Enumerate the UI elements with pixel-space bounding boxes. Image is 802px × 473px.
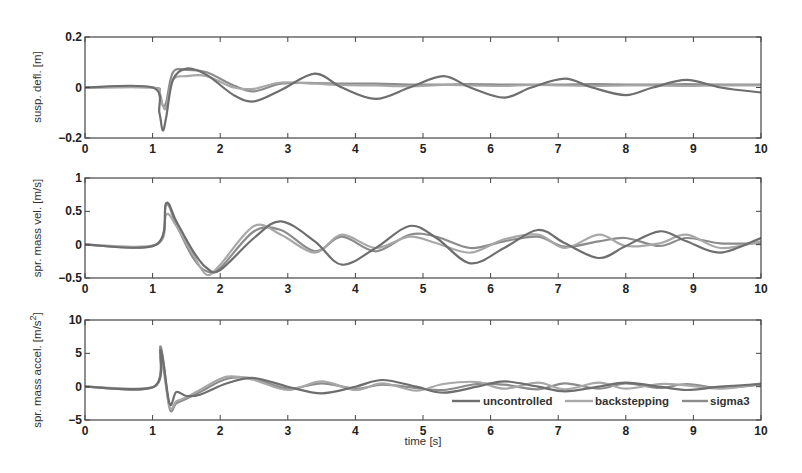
axes-box bbox=[85, 37, 761, 138]
x-tick-label: 6 bbox=[487, 424, 494, 438]
x-tick-label: 0 bbox=[82, 424, 89, 438]
x-tick-label: 1 bbox=[149, 424, 156, 438]
y-tick-label: −0.2 bbox=[58, 131, 82, 145]
x-tick-label: 4 bbox=[352, 142, 359, 156]
line-uncontrolled bbox=[85, 203, 761, 273]
y-axis-label-suspension-deflection: susp. defl. [m] bbox=[31, 51, 43, 123]
x-tick-label: 2 bbox=[217, 424, 224, 438]
x-tick-label: 4 bbox=[352, 282, 359, 296]
x-tick-label: 9 bbox=[690, 282, 697, 296]
x-tick-label: 1 bbox=[149, 282, 156, 296]
y-tick-label: 0 bbox=[75, 380, 82, 394]
y-tick-label: 0.5 bbox=[65, 204, 82, 218]
series-group bbox=[85, 68, 761, 130]
legend: uncontrolledbacksteppingsigma3 bbox=[452, 395, 750, 407]
x-tick-label: 4 bbox=[352, 424, 359, 438]
x-tick-label: 0 bbox=[82, 142, 89, 156]
x-tick-label: 9 bbox=[690, 424, 697, 438]
x-tick-label: 5 bbox=[420, 282, 427, 296]
y-tick-label: 1 bbox=[75, 171, 82, 185]
x-tick-label: 8 bbox=[622, 424, 629, 438]
y-axis-label-sprung-mass-velocity: spr. mass vel. [m/s] bbox=[31, 179, 43, 277]
x-tick-label: 8 bbox=[622, 142, 629, 156]
x-tick-label: 9 bbox=[690, 142, 697, 156]
x-tick-label: 1 bbox=[149, 142, 156, 156]
panel-sprung-mass-acceleration: 012345678910−50510 bbox=[68, 313, 768, 438]
y-tick-label: 0 bbox=[75, 238, 82, 252]
y-tick-label: −5 bbox=[68, 413, 82, 427]
x-tick-label: 0 bbox=[82, 282, 89, 296]
x-axis-label: time [s] bbox=[404, 435, 441, 447]
line-uncontrolled bbox=[85, 68, 761, 130]
panel-sprung-mass-velocity: 012345678910−0.500.51 bbox=[58, 171, 768, 296]
legend-label-sigma3: sigma3 bbox=[710, 395, 750, 407]
x-tick-label: 5 bbox=[420, 142, 427, 156]
series-group bbox=[85, 203, 761, 275]
x-tick-label: 7 bbox=[555, 424, 562, 438]
y-tick-label: 10 bbox=[69, 313, 83, 327]
y-tick-label: 0.2 bbox=[65, 30, 82, 44]
x-tick-label: 3 bbox=[284, 142, 291, 156]
legend-label-backstepping: backstepping bbox=[595, 395, 669, 407]
y-tick-label: 0 bbox=[75, 81, 82, 95]
y-tick-label: −0.5 bbox=[58, 271, 82, 285]
legend-label-uncontrolled: uncontrolled bbox=[483, 395, 553, 407]
x-tick-label: 3 bbox=[284, 282, 291, 296]
x-tick-label: 10 bbox=[754, 142, 768, 156]
x-tick-label: 3 bbox=[284, 424, 291, 438]
y-axis-label-sprung-mass-acceleration: spr. mass accel. [m/s2] bbox=[28, 312, 43, 428]
line-backstepping bbox=[85, 214, 761, 275]
x-tick-label: 8 bbox=[622, 282, 629, 296]
x-tick-label: 2 bbox=[217, 282, 224, 296]
line-backstepping bbox=[85, 75, 761, 109]
x-tick-label: 6 bbox=[487, 142, 494, 156]
line-sigma3 bbox=[85, 69, 761, 107]
x-tick-label: 2 bbox=[217, 142, 224, 156]
y-tick-label: 5 bbox=[75, 346, 82, 360]
x-tick-label: 7 bbox=[555, 142, 562, 156]
x-tick-label: 7 bbox=[555, 282, 562, 296]
x-tick-label: 6 bbox=[487, 282, 494, 296]
x-tick-label: 10 bbox=[754, 424, 768, 438]
x-tick-label: 10 bbox=[754, 282, 768, 296]
figure: 012345678910−0.200.2 susp. defl. [m] 012… bbox=[0, 0, 802, 473]
panel-suspension-deflection: 012345678910−0.200.2 bbox=[58, 30, 768, 156]
